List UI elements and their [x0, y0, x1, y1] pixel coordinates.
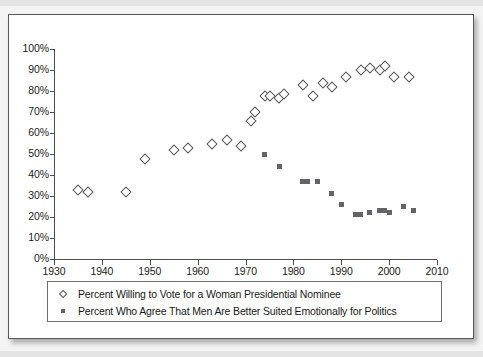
data-point — [221, 134, 232, 145]
y-tick — [50, 112, 55, 113]
data-point — [341, 71, 352, 82]
y-tick-label: 30% — [9, 189, 49, 201]
y-tick — [50, 49, 55, 50]
data-point — [235, 140, 246, 151]
y-tick — [50, 196, 55, 197]
x-tick-label: 2010 — [414, 265, 460, 277]
data-point — [298, 79, 309, 90]
figure-card: 0%10%20%30%40%50%60%70%80%90%100% 193019… — [8, 14, 474, 339]
data-point — [207, 138, 218, 149]
data-point — [277, 164, 282, 169]
page-wrapper: 0%10%20%30%40%50%60%70%80%90%100% 193019… — [0, 0, 483, 357]
y-tick-label: 50% — [9, 147, 49, 159]
y-tick-label: 80% — [9, 84, 49, 96]
data-point — [262, 152, 267, 157]
y-tick — [50, 133, 55, 134]
y-tick — [50, 70, 55, 71]
data-point — [339, 202, 344, 207]
filled-square-icon — [48, 309, 78, 314]
data-point — [305, 179, 310, 184]
x-tick-label: 1980 — [270, 265, 316, 277]
data-point — [387, 210, 392, 215]
data-point — [401, 204, 406, 209]
x-tick-label: 1950 — [127, 265, 173, 277]
x-tick-label: 1960 — [175, 265, 221, 277]
y-tick-label: 20% — [9, 210, 49, 222]
data-point — [326, 82, 337, 93]
data-point — [411, 208, 416, 213]
x-tick-label: 1970 — [223, 265, 269, 277]
data-point — [140, 153, 151, 164]
legend-entry-men-better-suited: Percent Who Agree That Men Are Better Su… — [48, 302, 443, 320]
data-point — [389, 71, 400, 82]
x-tick-label: 1940 — [79, 265, 125, 277]
y-tick-label: 70% — [9, 105, 49, 117]
data-point — [82, 187, 93, 198]
legend-entry-vote-woman: Percent Willing to Vote for a Woman Pres… — [48, 285, 443, 303]
data-point — [403, 71, 414, 82]
y-tick-label: 60% — [9, 126, 49, 138]
y-tick — [50, 217, 55, 218]
data-point — [183, 142, 194, 153]
scan-band-bottom — [0, 351, 483, 357]
x-tick-label: 1930 — [31, 265, 77, 277]
legend-label-vote-woman: Percent Willing to Vote for a Woman Pres… — [78, 288, 341, 300]
data-point — [121, 187, 132, 198]
y-tick-label: 90% — [9, 63, 49, 75]
y-tick — [50, 238, 55, 239]
y-tick-label: 10% — [9, 231, 49, 243]
data-point — [307, 90, 318, 101]
scan-band-top — [0, 0, 483, 6]
data-point — [367, 210, 372, 215]
y-tick-label: 0% — [9, 252, 49, 264]
x-tick-label: 2000 — [366, 265, 412, 277]
data-point — [315, 179, 320, 184]
y-tick — [50, 154, 55, 155]
open-diamond-icon — [48, 291, 78, 297]
legend-label-men-better-suited: Percent Who Agree That Men Are Better Su… — [78, 305, 397, 317]
y-tick-label: 40% — [9, 168, 49, 180]
y-tick-label: 100% — [9, 42, 49, 54]
data-point — [358, 212, 363, 217]
data-point — [168, 145, 179, 156]
chart-legend: Percent Willing to Vote for a Woman Pres… — [47, 281, 442, 322]
y-tick — [50, 175, 55, 176]
x-tick-label: 1990 — [318, 265, 364, 277]
y-tick — [50, 91, 55, 92]
data-point — [329, 191, 334, 196]
